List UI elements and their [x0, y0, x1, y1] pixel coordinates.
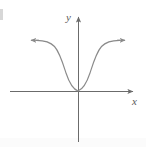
math-figure: y x	[0, 0, 146, 147]
y-axis-label: y	[66, 12, 71, 23]
x-axis-label: x	[132, 96, 137, 107]
graph-canvas	[0, 0, 146, 147]
